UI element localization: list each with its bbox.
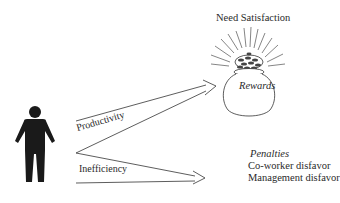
pot-of-gold-icon	[211, 27, 285, 116]
penalties-title: Penalties	[250, 148, 289, 159]
inefficiency-label: Inefficiency	[79, 163, 127, 174]
person-icon	[15, 106, 55, 182]
need-satisfaction-title: Need Satisfaction	[216, 12, 290, 23]
penalty-item: Co-worker disfavor	[248, 160, 331, 171]
penalty-item: Management disfavor	[248, 172, 340, 183]
rewards-label: Rewards	[239, 80, 275, 91]
